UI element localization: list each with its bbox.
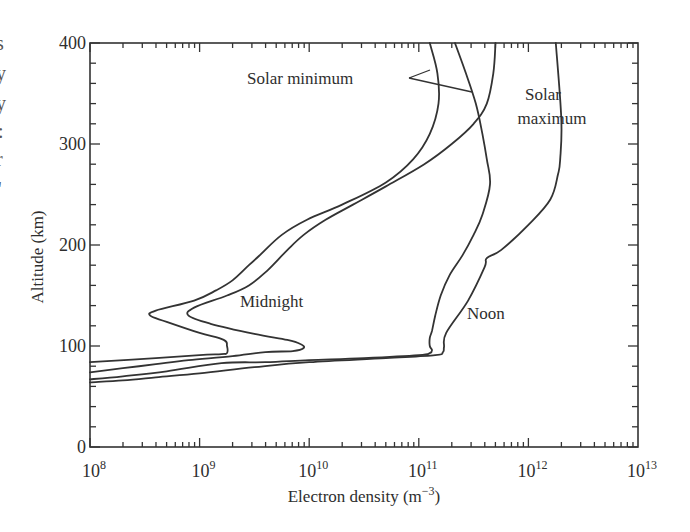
annotation-solar-maximum-line1: Solar xyxy=(525,85,561,104)
series-line-solar-min-noon xyxy=(90,43,490,379)
series-line-solar-max-noon xyxy=(90,43,562,382)
x-tick-label: 109 xyxy=(192,458,216,481)
cropped-char: s xyxy=(0,32,4,54)
y-tick-label: 300 xyxy=(59,134,86,154)
series-line-solar-min-midnight xyxy=(90,43,439,362)
annotation-noon: Noon xyxy=(467,304,505,323)
cropped-char: r xyxy=(0,148,3,170)
annotation-midnight: Midnight xyxy=(240,292,304,311)
x-tick-label: 1011 xyxy=(408,458,438,481)
y-tick-label: 200 xyxy=(59,235,86,255)
y-tick-labels: 0 100 200 300 400 xyxy=(59,33,86,457)
solar-minimum-leader-lines xyxy=(409,70,472,92)
x-tick-labels: 108 109 1010 1011 1012 1013 xyxy=(82,458,657,481)
cropped-char: y xyxy=(0,62,6,85)
cropped-page-text: s y y : r ' xyxy=(0,32,6,200)
x-tick-label: 1013 xyxy=(627,458,657,481)
x-axis-title: Electron density (m−3) xyxy=(288,484,441,506)
annotation-solar-maximum-line2: maximum xyxy=(518,109,587,128)
cropped-char: : xyxy=(0,120,4,142)
cropped-char: y xyxy=(0,92,6,115)
y-tick-label: 0 xyxy=(77,437,86,457)
x-tick-label: 108 xyxy=(82,458,106,481)
y-tick-label: 100 xyxy=(59,336,86,356)
electron-density-chart: s y y : r ' 0 100 200 300 400 108 109 10… xyxy=(0,0,690,532)
series-line-solar-max-midnight xyxy=(90,43,496,372)
annotation-solar-minimum: Solar minimum xyxy=(247,69,353,88)
y-tick-label: 400 xyxy=(59,33,86,53)
cropped-char: ' xyxy=(0,178,2,200)
x-tick-label: 1012 xyxy=(517,458,547,481)
series-lines xyxy=(90,43,562,382)
x-tick-label: 1010 xyxy=(298,458,328,481)
y-axis-title: Altitude (km) xyxy=(28,210,47,303)
